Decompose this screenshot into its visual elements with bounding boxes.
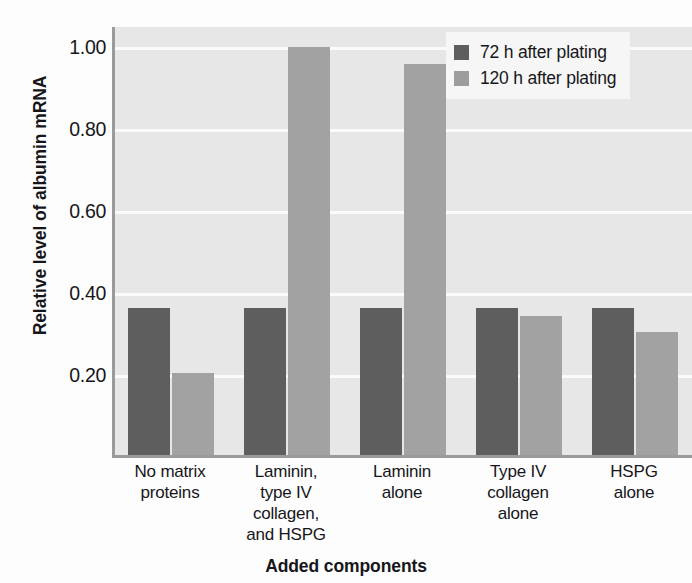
x-category-label: No matrixproteins xyxy=(112,461,228,503)
chart-figure: Relative level of albumin mRNA 1.00 0.80… xyxy=(0,0,692,583)
bar xyxy=(520,316,562,457)
bar xyxy=(244,308,286,457)
bar xyxy=(288,47,330,457)
x-axis-category-labels: No matrixproteinsLaminin,type IVcollagen… xyxy=(112,461,692,551)
y-tick-label: 0.20 xyxy=(40,364,106,387)
legend-swatch-icon xyxy=(454,71,469,86)
x-category-label-line: alone xyxy=(576,482,692,503)
x-category-label: Laminin,type IVcollagen,and HSPG xyxy=(228,461,344,545)
x-category-label-line: HSPG xyxy=(576,461,692,482)
bar xyxy=(172,373,214,457)
legend-swatch-icon xyxy=(454,45,469,60)
x-category-label-line: Type IV xyxy=(460,461,576,482)
x-category-label-line: and HSPG xyxy=(228,524,344,545)
y-tick-label: 0.40 xyxy=(40,282,106,305)
x-axis-title: Added components xyxy=(0,556,692,577)
bar xyxy=(592,308,634,457)
x-category-label-line: collagen, xyxy=(228,503,344,524)
x-category-label-line: alone xyxy=(344,482,460,503)
y-tick-label: 0.60 xyxy=(40,200,106,223)
bar xyxy=(128,308,170,457)
x-category-label: HSPGalone xyxy=(576,461,692,503)
legend-item-72h: 72 h after plating xyxy=(454,39,616,65)
x-axis-line xyxy=(112,455,692,458)
x-category-label: Type IVcollagenalone xyxy=(460,461,576,524)
y-tick-label: 0.80 xyxy=(40,118,106,141)
x-category-label-line: collagen xyxy=(460,482,576,503)
y-axis-tick-labels: 1.00 0.80 0.60 0.40 0.20 xyxy=(36,0,106,583)
x-category-label-line: type IV xyxy=(228,482,344,503)
legend-item-120h: 120 h after plating xyxy=(454,65,616,91)
x-category-label-line: alone xyxy=(460,503,576,524)
legend-label: 72 h after plating xyxy=(480,42,607,63)
bar xyxy=(360,308,402,457)
legend: 72 h after plating 120 h after plating xyxy=(446,32,630,99)
x-category-label: Lamininalone xyxy=(344,461,460,503)
x-category-label-line: proteins xyxy=(112,482,228,503)
y-tick-label: 1.00 xyxy=(40,36,106,59)
bar xyxy=(636,332,678,457)
bar xyxy=(404,64,446,457)
legend-label: 120 h after plating xyxy=(480,68,616,89)
bar xyxy=(476,308,518,457)
x-category-label-line: Laminin, xyxy=(228,461,344,482)
x-category-label-line: Laminin xyxy=(344,461,460,482)
x-category-label-line: No matrix xyxy=(112,461,228,482)
